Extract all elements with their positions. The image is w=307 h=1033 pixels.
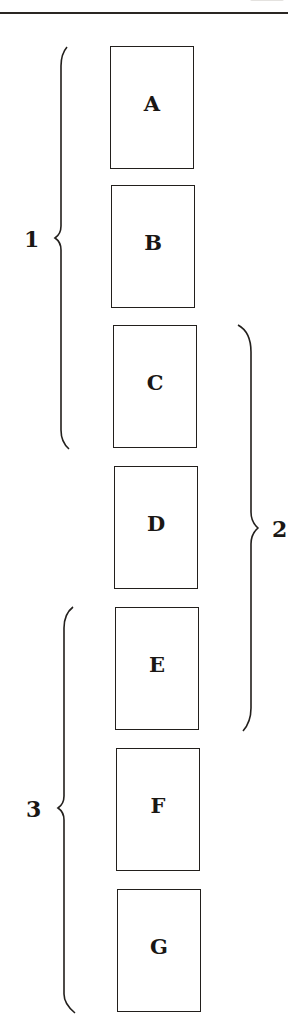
- group-label-1: 1: [24, 228, 39, 250]
- group-label-2: 2: [272, 518, 287, 540]
- brace-layer: [0, 0, 307, 1033]
- brace-2-icon: [238, 325, 258, 731]
- group-label-3: 3: [26, 798, 41, 820]
- brace-3-icon: [58, 607, 75, 1013]
- brace-1-icon: [55, 47, 69, 449]
